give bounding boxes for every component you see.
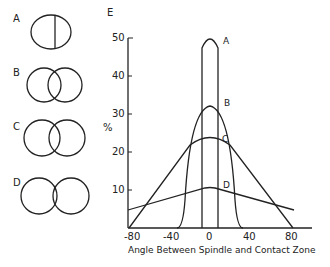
xtick: 40 — [243, 231, 256, 242]
panel-label-d: D — [13, 177, 21, 188]
figure-label: E — [107, 7, 113, 18]
cell-a — [31, 15, 71, 49]
series-label-b: B — [224, 98, 230, 108]
ytick: 50 — [112, 32, 125, 43]
series-label-c: C — [222, 134, 228, 144]
figure: A B C D E % 50 40 30 20 10 -80 -40 0 40 … — [0, 0, 330, 267]
ytick: 20 — [112, 146, 125, 157]
y-axis-label: % — [103, 122, 113, 133]
panel-label-b: B — [13, 67, 20, 78]
xtick: 0 — [206, 231, 212, 242]
ytick: 10 — [112, 184, 125, 195]
ytick: 40 — [112, 70, 125, 81]
panel-label-c: C — [13, 121, 20, 132]
xtick: -40 — [163, 231, 179, 242]
x-axis-label: Angle Between Spindle and Contact Zone — [128, 245, 316, 255]
xtick: -80 — [124, 231, 140, 242]
panel-label-a: A — [13, 13, 20, 24]
ytick: 30 — [112, 108, 125, 119]
chart-svg — [0, 0, 330, 267]
series-label-d: D — [223, 180, 230, 190]
xtick: 80 — [285, 231, 298, 242]
series-label-a: A — [223, 36, 229, 46]
